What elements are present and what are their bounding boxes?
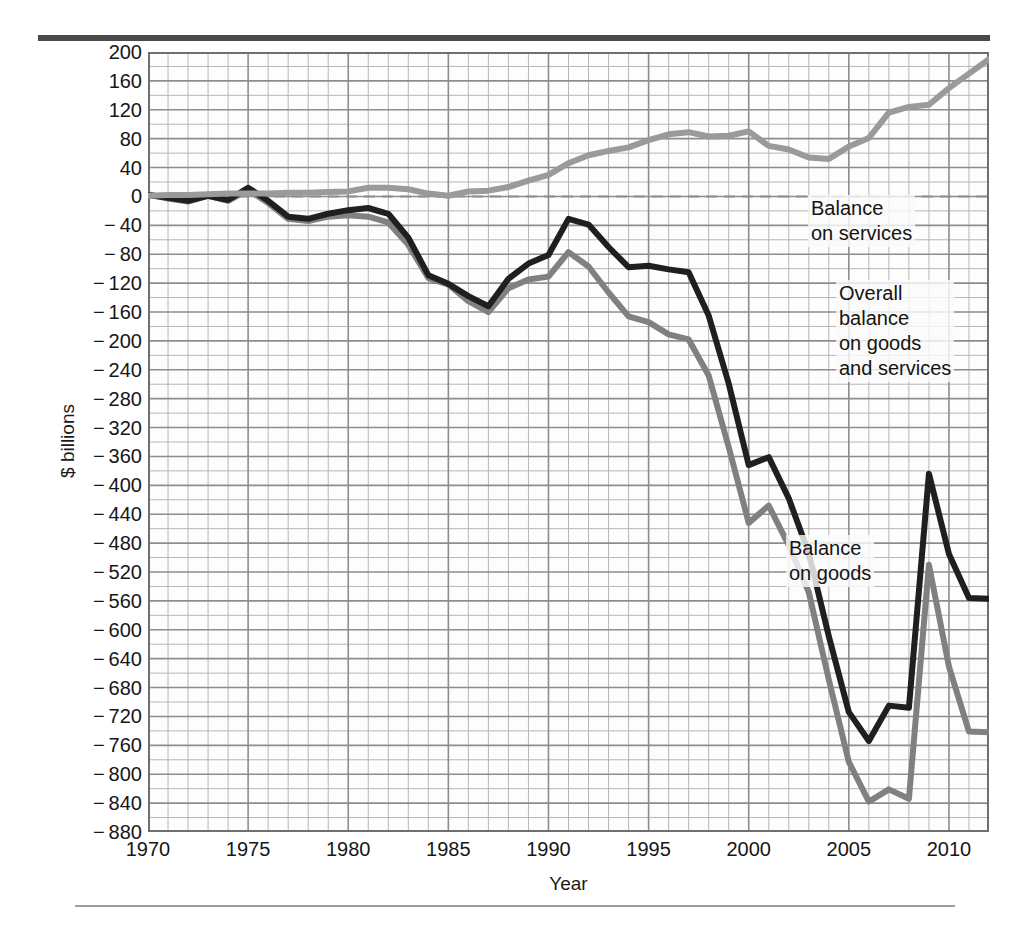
annotation-balance-on-goods: Balance on goods [786, 535, 874, 587]
y-tick-label: − 440 [42, 504, 142, 524]
y-tick-label: − 800 [42, 764, 142, 784]
x-tick-label: 1970 [126, 838, 171, 861]
x-tick-label: 1995 [626, 838, 671, 861]
annotation-overall-balance: Overall balance on goods and services [836, 280, 954, 382]
chart-canvas [148, 52, 989, 832]
y-tick-label: 200 [42, 42, 142, 62]
y-tick-label: 0 [42, 186, 142, 206]
y-tick-label: − 40 [42, 215, 142, 235]
y-tick-label: 40 [42, 158, 142, 178]
x-tick-label: 1980 [326, 838, 371, 861]
y-tick-label: − 480 [42, 533, 142, 553]
y-tick-label: − 80 [42, 244, 142, 264]
y-tick-label: − 160 [42, 302, 142, 322]
bottom-divider-rule [75, 905, 955, 907]
grid-minor-lines [148, 52, 989, 832]
x-tick-label: 2000 [726, 838, 771, 861]
y-tick-label: − 240 [42, 360, 142, 380]
x-tick-label: 2005 [827, 838, 872, 861]
y-tick-label: − 400 [42, 475, 142, 495]
x-tick-label: 1990 [526, 838, 571, 861]
y-tick-label: − 600 [42, 620, 142, 640]
y-tick-label: − 840 [42, 793, 142, 813]
x-axis-title: Year [148, 873, 989, 895]
y-tick-label: − 280 [42, 389, 142, 409]
y-tick-label: − 120 [42, 273, 142, 293]
y-tick-label: 160 [42, 71, 142, 91]
plot-area: Balance on services Overall balance on g… [148, 52, 989, 832]
y-tick-label: − 720 [42, 706, 142, 726]
y-tick-label: 80 [42, 129, 142, 149]
annotation-balance-on-services: Balance on services [808, 195, 915, 247]
y-tick-label: − 200 [42, 331, 142, 351]
y-tick-label: − 320 [42, 418, 142, 438]
y-tick-label: − 640 [42, 649, 142, 669]
x-tick-label: 1975 [226, 838, 271, 861]
x-tick-label: 2010 [927, 838, 972, 861]
y-tick-label: − 520 [42, 562, 142, 582]
y-axis-tick-labels: 20016012080400− 40− 80− 120− 160− 200− 2… [38, 0, 142, 929]
top-divider-rule [38, 35, 990, 41]
y-tick-label: 120 [42, 100, 142, 120]
x-tick-label: 1985 [426, 838, 471, 861]
y-tick-label: − 680 [42, 678, 142, 698]
figure-balance-of-trade-chart: $ billions 20016012080400− 40− 80− 120− … [0, 0, 1027, 929]
y-tick-label: − 360 [42, 446, 142, 466]
y-tick-label: − 760 [42, 735, 142, 755]
y-tick-label: − 560 [42, 591, 142, 611]
